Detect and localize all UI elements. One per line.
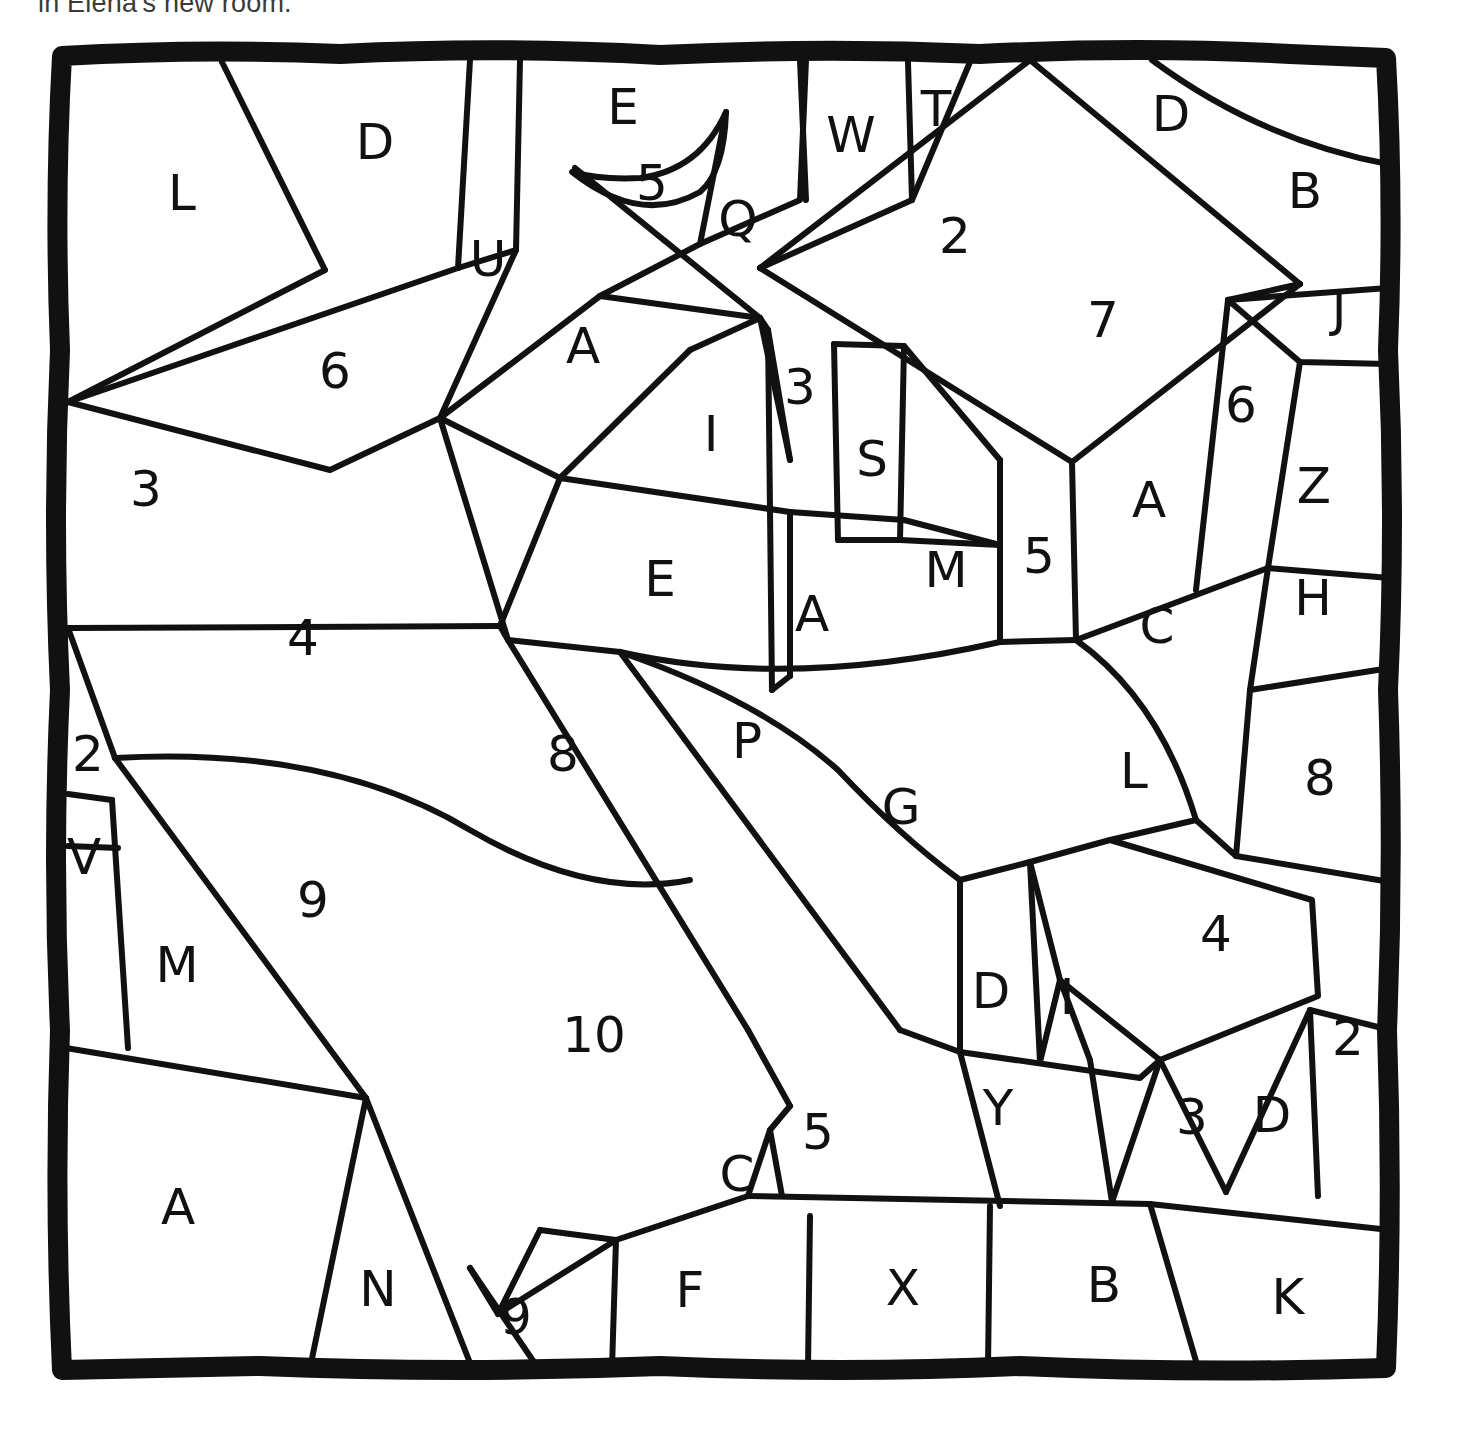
region-label: D xyxy=(1253,1086,1292,1144)
region-label: 2 xyxy=(1332,1009,1364,1067)
region-label: 6 xyxy=(1225,376,1257,434)
region-label: 2 xyxy=(939,207,971,265)
region-label: D xyxy=(972,962,1011,1020)
region-label: 5 xyxy=(1023,527,1055,585)
region-label: J xyxy=(1329,280,1347,338)
region-label: G xyxy=(882,778,921,836)
region-label: W xyxy=(826,106,875,164)
region-label: A xyxy=(566,317,600,375)
region-label: Z xyxy=(1297,457,1331,515)
puzzle-canvas: L D 6 U E 5 Q W T D B 2 7 J A 3 I S 6 A … xyxy=(0,0,1457,1430)
region-label: 9 xyxy=(500,1288,532,1346)
region-label: C xyxy=(1140,597,1175,655)
region-label: U xyxy=(470,230,507,288)
region-label: M xyxy=(155,936,198,994)
puzzle-labels: L D 6 U E 5 Q W T D B 2 7 J A 3 I S 6 A … xyxy=(67,78,1364,1346)
region-label: L xyxy=(168,164,196,222)
region-label: 3 xyxy=(1176,1088,1208,1146)
region-label: B xyxy=(1087,1256,1121,1314)
region-label: Y xyxy=(982,1079,1014,1137)
region-label: A xyxy=(795,585,829,643)
region-label: L xyxy=(1120,742,1148,800)
region-label: 3 xyxy=(130,460,162,518)
region-label: E xyxy=(607,78,639,136)
region-label: 8 xyxy=(1304,749,1336,807)
region-label: 8 xyxy=(547,725,579,783)
region-label: K xyxy=(1272,1268,1306,1326)
region-label: I xyxy=(704,405,719,463)
region-label: X xyxy=(886,1259,920,1317)
region-label: D xyxy=(356,113,395,171)
region-label: F xyxy=(676,1261,705,1319)
region-label: A xyxy=(161,1178,195,1236)
region-label: B xyxy=(1288,162,1322,220)
region-label: 10 xyxy=(562,1006,626,1064)
region-label: 3 xyxy=(784,358,816,416)
region-label: 4 xyxy=(1200,905,1232,963)
region-label: A xyxy=(1132,471,1166,529)
region-label: 5 xyxy=(636,154,668,212)
region-label: 4 xyxy=(287,609,319,667)
region-label: H xyxy=(1294,569,1332,627)
region-label: 2 xyxy=(72,725,104,783)
region-label: E xyxy=(644,550,676,608)
region-label: C xyxy=(720,1145,755,1203)
region-label: 6 xyxy=(319,342,351,400)
region-label: V xyxy=(67,828,101,886)
region-label: D xyxy=(1152,85,1191,143)
region-label: T xyxy=(920,80,952,138)
region-label: I xyxy=(1060,968,1075,1026)
region-label: 7 xyxy=(1087,291,1119,349)
region-label: Q xyxy=(718,190,757,248)
region-label: N xyxy=(359,1260,396,1318)
region-label: M xyxy=(924,541,967,599)
region-label: S xyxy=(856,430,888,488)
region-label: 5 xyxy=(802,1103,834,1161)
region-label: P xyxy=(732,712,762,770)
region-label: 9 xyxy=(297,871,329,929)
